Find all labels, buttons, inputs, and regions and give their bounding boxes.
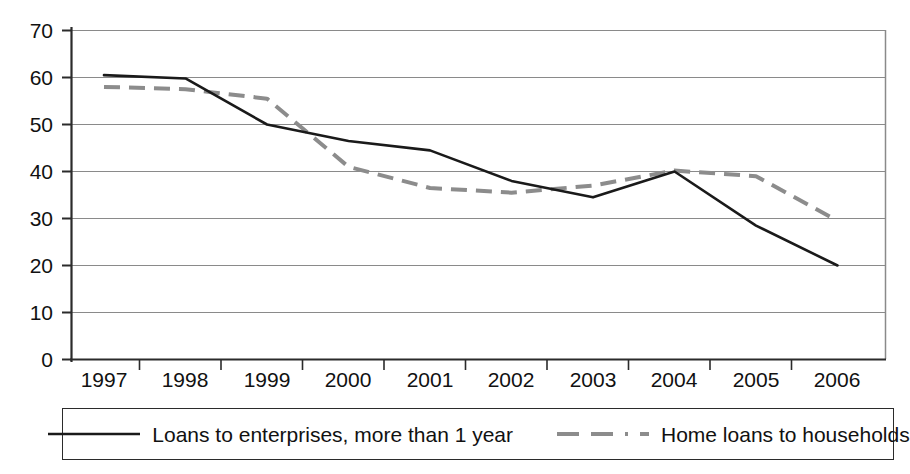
- series-line-loans-to-enterprises: [104, 75, 838, 265]
- plot-area: 70 60 50 40 30 20 10 0 1997 1998 1999 20…: [0, 0, 901, 400]
- x-tick-label-2005: 2005: [733, 368, 780, 391]
- y-tick-labels: 70 60 50 40 30 20 10 0: [30, 19, 53, 371]
- legend-entry-loans-to-enterprises[interactable]: Loans to enterprises, more than 1 year: [46, 424, 513, 445]
- y-gridlines: [71, 31, 886, 313]
- y-tick-label-30: 30: [30, 207, 53, 230]
- x-tick-label-2003: 2003: [570, 368, 617, 391]
- x-tick-label-2001: 2001: [407, 368, 454, 391]
- chart-svg: 70 60 50 40 30 20 10 0 1997 1998 1999 20…: [0, 0, 901, 400]
- x-tick-labels: 1997 1998 1999 2000 2001 2002 2003 2004 …: [81, 368, 861, 391]
- y-tick-label-10: 10: [30, 301, 53, 324]
- legend-swatch-dashed-line-icon: [555, 427, 651, 441]
- legend-entry-home-loans-to-households[interactable]: Home loans to households: [555, 424, 910, 445]
- legend-label-loans-to-enterprises: Loans to enterprises, more than 1 year: [152, 424, 513, 445]
- x-tick-label-2000: 2000: [325, 368, 372, 391]
- y-tick-label-50: 50: [30, 113, 53, 136]
- y-tick-label-40: 40: [30, 160, 53, 183]
- y-tick-label-20: 20: [30, 254, 53, 277]
- y-tick-label-0: 0: [41, 348, 53, 371]
- series-line-home-loans-to-households: [104, 87, 838, 221]
- legend-label-home-loans-to-households: Home loans to households: [661, 424, 910, 445]
- x-tick-label-1999: 1999: [244, 368, 291, 391]
- x-tick-label-2006: 2006: [814, 368, 861, 391]
- x-tick-label-1997: 1997: [81, 368, 128, 391]
- x-tick-label-1998: 1998: [162, 368, 209, 391]
- y-tick-label-60: 60: [30, 66, 53, 89]
- x-tick-label-2002: 2002: [488, 368, 535, 391]
- y-axis-ticks: [62, 31, 71, 360]
- x-tick-label-2004: 2004: [651, 368, 698, 391]
- y-tick-label-70: 70: [30, 19, 53, 42]
- chart-legend: Loans to enterprises, more than 1 year H…: [62, 408, 894, 460]
- legend-swatch-solid-line-icon: [46, 427, 142, 441]
